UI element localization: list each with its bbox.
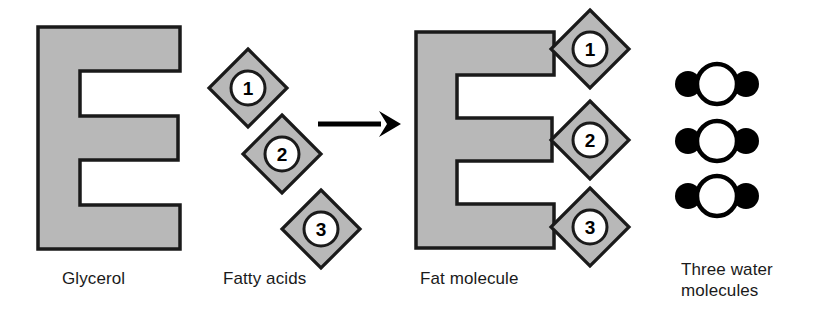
oxygen-atom <box>697 176 737 216</box>
glycerol-e-shape <box>36 25 182 251</box>
fat-molecule-label: Fat molecule <box>420 268 519 289</box>
water-molecule-3 <box>674 172 760 220</box>
fatty-acid-diamond-2: 2 <box>240 112 324 196</box>
bonded-fatty-acid-diamond-1: 1 <box>548 7 632 91</box>
fat-molecule-e-shape <box>414 30 556 250</box>
fatty-acid-diamond-3: 3 <box>279 187 363 271</box>
bonded-fatty-acid-diamond-3: 3 <box>548 185 632 269</box>
fatty-acids-label: Fatty acids <box>223 268 306 289</box>
water-molecules-label: Three water molecules <box>681 259 773 302</box>
oxygen-atom <box>697 121 737 161</box>
diagram-canvas: 1 2 3 1 <box>0 0 831 315</box>
arrow-right-icon <box>317 108 403 140</box>
water-molecule-2 <box>674 117 760 165</box>
water-molecule-1 <box>674 60 760 108</box>
glycerol-label: Glycerol <box>62 268 125 289</box>
oxygen-atom <box>697 64 737 104</box>
bonded-fatty-acid-diamond-2: 2 <box>548 98 632 182</box>
